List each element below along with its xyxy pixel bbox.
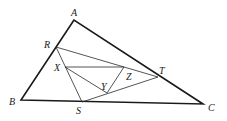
triangle-rst — [56, 47, 158, 102]
label-x: X — [53, 62, 61, 73]
label-s: S — [76, 105, 81, 116]
label-y: Y — [101, 81, 108, 92]
triangle-abc — [21, 20, 203, 104]
triangle-xyz — [65, 67, 124, 93]
triangle-diagram: A B C R S T X Y Z — [0, 0, 227, 121]
label-r: R — [43, 39, 50, 50]
label-z: Z — [126, 71, 132, 82]
label-t: T — [159, 65, 166, 76]
label-b: B — [9, 96, 15, 107]
label-c: C — [208, 102, 215, 113]
label-a: A — [70, 7, 78, 18]
